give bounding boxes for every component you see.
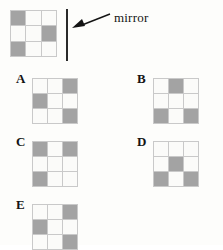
grid-cell	[63, 157, 77, 171]
option-label-a: A	[16, 71, 25, 87]
grid-cell	[48, 94, 62, 108]
grid-cell	[169, 79, 183, 93]
grid-cell	[154, 94, 168, 108]
mirror-label: mirror	[114, 10, 148, 26]
grid-cell	[26, 42, 40, 56]
grid-cell	[33, 109, 47, 123]
option-label-e: E	[16, 197, 25, 213]
grid-cell	[11, 26, 25, 40]
grid-cell	[48, 157, 62, 171]
grid-cell	[184, 157, 198, 171]
mirror-line	[66, 9, 68, 61]
grid-cell	[169, 109, 183, 123]
grid-cell	[184, 172, 198, 186]
grid-cell	[154, 142, 168, 156]
grid-cell	[154, 157, 168, 171]
grid-cell	[169, 142, 183, 156]
original-pattern-grid	[10, 10, 57, 57]
grid-cell	[63, 94, 77, 108]
grid-cell	[169, 94, 183, 108]
option-grid-a[interactable]	[32, 78, 78, 124]
grid-cell	[33, 205, 47, 219]
grid-cell	[48, 142, 62, 156]
option-grid-b[interactable]	[153, 78, 199, 124]
grid-cell	[11, 11, 25, 25]
option-grid-e[interactable]	[32, 204, 78, 250]
grid-cell	[63, 142, 77, 156]
grid-cell	[184, 94, 198, 108]
grid-cell	[154, 109, 168, 123]
grid-cell	[184, 142, 198, 156]
grid-cell	[63, 79, 77, 93]
option-label-d: D	[137, 134, 146, 150]
grid-cell	[48, 205, 62, 219]
grid-cell	[33, 235, 47, 249]
grid-cell	[26, 11, 40, 25]
grid-cell	[42, 42, 56, 56]
grid-cell	[169, 157, 183, 171]
grid-cell	[48, 79, 62, 93]
grid-cell	[48, 235, 62, 249]
grid-cell	[33, 172, 47, 186]
option-grid-d[interactable]	[153, 141, 199, 187]
grid-cell	[26, 26, 40, 40]
grid-cell	[33, 142, 47, 156]
grid-cell	[63, 220, 77, 234]
grid-cell	[63, 172, 77, 186]
grid-cell	[154, 172, 168, 186]
grid-cell	[63, 205, 77, 219]
grid-cell	[42, 11, 56, 25]
option-label-b: B	[137, 71, 146, 87]
grid-cell	[33, 94, 47, 108]
grid-cell	[42, 26, 56, 40]
grid-cell	[48, 109, 62, 123]
grid-cell	[11, 42, 25, 56]
option-label-c: C	[16, 134, 25, 150]
grid-cell	[33, 220, 47, 234]
grid-cell	[63, 109, 77, 123]
option-grid-c[interactable]	[32, 141, 78, 187]
grid-cell	[154, 79, 168, 93]
grid-cell	[33, 79, 47, 93]
grid-cell	[33, 157, 47, 171]
grid-cell	[184, 79, 198, 93]
grid-cell	[184, 109, 198, 123]
mirror-arrow-icon	[70, 12, 112, 28]
grid-cell	[63, 235, 77, 249]
grid-cell	[169, 172, 183, 186]
grid-cell	[48, 172, 62, 186]
grid-cell	[48, 220, 62, 234]
